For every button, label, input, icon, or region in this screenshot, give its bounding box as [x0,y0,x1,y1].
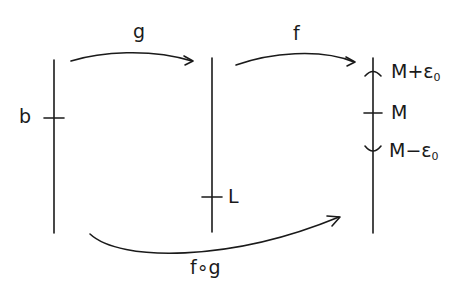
label-m-plus-epsilon: M+ε0 [391,62,441,83]
arrow-fog [90,217,339,253]
label-L: L [228,187,239,206]
arrow-g [71,53,192,61]
label-fog: f∘g [190,258,221,277]
label-m: M [391,103,407,122]
label-g: g [133,22,145,41]
label-b: b [19,107,31,126]
label-m-minus-epsilon-sub: 0 [432,150,439,163]
label-m-minus-epsilon-text: M−ε [389,139,432,161]
arrowhead-f-icon [346,57,355,66]
arrow-f [236,54,354,65]
label-m-plus-epsilon-sub: 0 [434,71,441,84]
label-m-plus-epsilon-text: M+ε [391,60,434,82]
label-m-minus-epsilon: M−ε0 [389,141,439,162]
label-f: f [293,24,300,43]
